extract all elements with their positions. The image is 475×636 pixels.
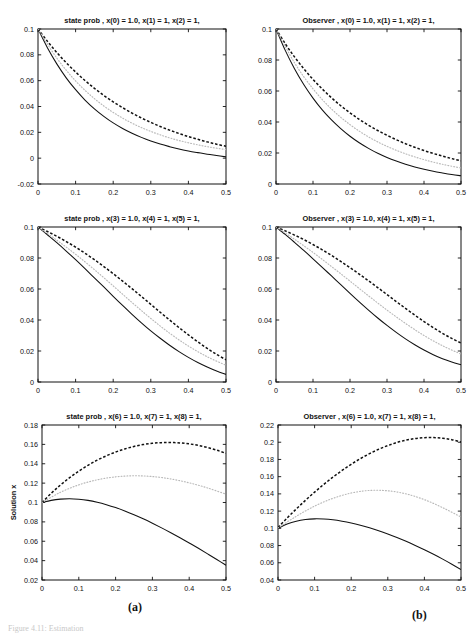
y-tick-label: 0.04 [258, 118, 272, 127]
x-tick-label: 0 [40, 584, 44, 593]
y-tick-label: 0.1 [24, 25, 34, 34]
x-tick-label: 0.5 [221, 584, 231, 593]
series-curve-x7 [278, 438, 461, 528]
x-tick-label: 0.4 [183, 188, 193, 197]
plot-frame [38, 227, 226, 382]
y-tick-label: 0.08 [260, 541, 274, 550]
y-tick-label: 0.14 [24, 459, 38, 468]
chart-panel-observer-012: Observer , x(0) = 1.0, x(1) = 1, x(2) = … [238, 2, 475, 200]
y-tick-label: 0.18 [260, 455, 274, 464]
y-tick-label: 0.08 [258, 254, 272, 263]
plot-frame [278, 425, 461, 580]
figure-container: state prob , x(0) = 1.0, x(1) = 1, x(2) … [0, 0, 475, 636]
y-tick-label: 0.04 [20, 316, 34, 325]
series-curve-x1 [276, 29, 461, 161]
y-tick-label: 0 [30, 378, 34, 387]
x-tick-label: 0.1 [308, 188, 318, 197]
y-tick-label: 0.2 [264, 438, 274, 447]
y-tick-label: 0.08 [258, 56, 272, 65]
y-tick-label: 0.02 [20, 128, 34, 137]
y-tick-label: 0.12 [260, 507, 274, 516]
y-tick-label: 0.06 [260, 558, 274, 567]
chart-panel-state-prob-345: state prob , x(3) = 1.0, x(4) = 1, x(5) … [0, 200, 238, 398]
x-tick-label: 0.1 [74, 584, 84, 593]
x-tick-label: 0 [36, 386, 40, 395]
series-curve-x5 [38, 227, 226, 365]
y-tick-label: 0.12 [24, 479, 38, 488]
chart-title: Observer , x(6) = 1.0, x(7) = 1, x(8) = … [303, 412, 435, 421]
y-tick-label: 0.08 [24, 517, 38, 526]
plot-frame [42, 425, 226, 580]
x-tick-label: 0.3 [146, 386, 156, 395]
y-tick-label: 0 [30, 154, 34, 163]
x-tick-label: 0 [36, 188, 40, 197]
y-tick-label: 0.1 [262, 25, 272, 34]
series-curve-x0 [38, 29, 226, 157]
y-tick-label: 0.16 [24, 440, 38, 449]
y-axis-label: Solution x [9, 484, 18, 521]
x-tick-label: 0.5 [456, 584, 466, 593]
x-tick-label: 0.3 [146, 188, 156, 197]
figure-caption: Figure 4.11: Estimation [8, 624, 468, 635]
x-tick-label: 0.3 [147, 584, 157, 593]
x-tick-label: 0.4 [183, 386, 193, 395]
y-tick-label: 0.22 [260, 421, 274, 430]
x-tick-label: 0.5 [221, 386, 231, 395]
y-tick-label: 0.02 [258, 347, 272, 356]
series-curve-x6 [42, 499, 226, 565]
y-tick-label: 0.1 [262, 223, 272, 232]
x-tick-label: 0 [274, 188, 278, 197]
x-tick-label: 0.3 [382, 188, 392, 197]
series-curve-x3 [276, 227, 461, 365]
y-tick-label: 0.02 [20, 347, 34, 356]
x-tick-label: 0.1 [310, 584, 320, 593]
chart-title: Observer , x(0) = 1.0, x(1) = 1, x(2) = … [302, 16, 434, 25]
series-curve-x8 [278, 490, 461, 528]
x-tick-label: 0.5 [456, 386, 466, 395]
series-curve-x4 [276, 227, 461, 343]
x-tick-label: 0.5 [456, 188, 466, 197]
y-tick-label: 0 [268, 180, 272, 189]
y-tick-label: 0.02 [258, 149, 272, 158]
y-tick-label: 0.14 [260, 489, 274, 498]
y-tick-label: 0.02 [24, 576, 38, 585]
chart-title: state prob , x(0) = 1.0, x(1) = 1, x(2) … [64, 16, 199, 25]
series-curve-x2 [38, 29, 226, 150]
chart-title: Observer , x(3) = 1.0, x(4) = 1, x(5) = … [302, 214, 434, 223]
x-tick-label: 0.4 [419, 584, 429, 593]
x-tick-label: 0.3 [382, 386, 392, 395]
y-tick-label: 0.04 [20, 102, 34, 111]
x-tick-label: 0.2 [345, 188, 355, 197]
series-curve-x5 [276, 227, 461, 354]
y-tick-label: 0.06 [258, 285, 272, 294]
x-tick-label: 0.2 [108, 188, 118, 197]
y-tick-label: 0.16 [260, 472, 274, 481]
y-tick-label: 0.04 [24, 556, 38, 565]
chart-panel-state-prob-678: state prob , x(6) = 1.0, x(7) = 1, x(8) … [0, 398, 238, 596]
series-curve-x0 [276, 29, 461, 176]
x-tick-label: 0.5 [221, 188, 231, 197]
x-tick-label: 0.1 [71, 188, 81, 197]
x-tick-label: 0.2 [345, 386, 355, 395]
chart-panel-observer-345: Observer , x(3) = 1.0, x(4) = 1, x(5) = … [238, 200, 475, 398]
chart-panel-state-prob-012: state prob , x(0) = 1.0, x(1) = 1, x(2) … [0, 2, 238, 200]
y-tick-label: 0.06 [20, 285, 34, 294]
series-curve-x1 [38, 29, 226, 146]
x-tick-label: 0.4 [184, 584, 194, 593]
x-tick-label: 0.1 [308, 386, 318, 395]
x-tick-label: 0.2 [346, 584, 356, 593]
chart-title: state prob , x(6) = 1.0, x(7) = 1, x(8) … [66, 412, 201, 421]
y-tick-label: 0.06 [24, 537, 38, 546]
y-tick-label: 0.1 [28, 498, 38, 507]
y-tick-label: 0.1 [24, 223, 34, 232]
x-tick-label: 0.4 [419, 386, 429, 395]
x-tick-label: 0.3 [383, 584, 393, 593]
chart-panel-observer-678: Observer , x(6) = 1.0, x(7) = 1, x(8) = … [238, 398, 475, 596]
y-tick-label: 0.04 [258, 316, 272, 325]
y-tick-label: -0.02 [18, 180, 34, 189]
series-curve-x2 [276, 29, 461, 168]
y-tick-label: 0 [268, 378, 272, 387]
y-tick-label: 0.06 [20, 76, 34, 85]
series-curve-x6 [278, 519, 461, 570]
x-tick-label: 0.2 [111, 584, 121, 593]
